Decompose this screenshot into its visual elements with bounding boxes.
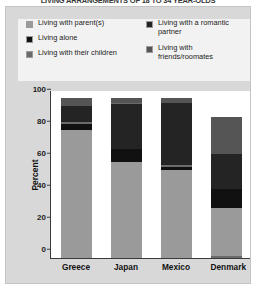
plot-area: Percent 020406080100GreeceJapanMexicoDen… <box>50 91 250 259</box>
legend-swatch-alone <box>26 36 33 43</box>
bar-segment-alone[interactable] <box>111 149 142 162</box>
bar-segment-parents[interactable] <box>161 170 192 258</box>
y-axis-tick: 100 <box>33 85 51 94</box>
y-axis-tick: 20 <box>37 213 51 222</box>
bar-denmark[interactable]: Denmark <box>211 117 242 258</box>
bar-segment-parents[interactable] <box>111 162 142 258</box>
legend-label: Living with friends/roomates <box>158 44 246 61</box>
x-axis-label-greece: Greece <box>61 262 92 272</box>
y-axis-tick: 0 <box>42 245 51 254</box>
bar-segment-children[interactable] <box>211 256 242 258</box>
legend-item: Living with their children <box>26 49 148 58</box>
chart-panel: Living with parent(s) Living alone Livin… <box>5 6 251 284</box>
x-axis-label-mexico: Mexico <box>161 262 192 272</box>
y-axis-tick: 40 <box>37 181 51 190</box>
legend-label: Living alone <box>38 34 77 43</box>
legend-label: Living with a romantic partner <box>158 19 246 36</box>
bar-mexico[interactable]: Mexico <box>161 98 192 258</box>
x-axis-label-denmark: Denmark <box>211 262 242 272</box>
y-axis-tick: 80 <box>37 117 51 126</box>
legend-item: Living with a romantic partner <box>146 19 250 36</box>
legend-label: Living with their children <box>38 49 117 58</box>
bar-greece[interactable]: Greece <box>61 98 92 258</box>
y-axis-tick: 60 <box>37 149 51 158</box>
bar-segment-partner[interactable] <box>111 104 142 149</box>
legend-swatch-partner <box>146 21 153 28</box>
chart-root: LIVING ARRANGEMENTS OF 18 TO 34 YEAR-OLD… <box>0 0 256 290</box>
legend-label: Living with parent(s) <box>38 19 104 28</box>
bar-segment-partner[interactable] <box>161 103 192 165</box>
bar-segment-parents[interactable] <box>211 208 242 256</box>
legend-swatch-parents <box>26 21 33 28</box>
legend-item: Living with friends/roomates <box>146 44 250 61</box>
bar-japan[interactable]: Japan <box>111 98 142 258</box>
legend-swatch-friends <box>146 46 153 53</box>
bar-segment-partner[interactable] <box>61 106 92 122</box>
chart-title: LIVING ARRANGEMENTS OF 18 TO 34 YEAR-OLD… <box>0 0 256 5</box>
legend-item: Living alone <box>26 34 148 43</box>
bar-segment-friends[interactable] <box>61 98 92 106</box>
legend-column-left: Living with parent(s) Living alone Livin… <box>26 19 148 60</box>
x-axis-label-japan: Japan <box>111 262 142 272</box>
bar-segment-parents[interactable] <box>61 130 92 258</box>
chart-legend: Living with parent(s) Living alone Livin… <box>18 19 250 81</box>
legend-swatch-children <box>26 51 33 58</box>
legend-item: Living with parent(s) <box>26 19 148 28</box>
legend-column-right: Living with a romantic partner Living wi… <box>146 19 250 63</box>
bar-segment-alone[interactable] <box>211 189 242 208</box>
bar-segment-friends[interactable] <box>211 117 242 154</box>
bar-segment-partner[interactable] <box>211 154 242 189</box>
